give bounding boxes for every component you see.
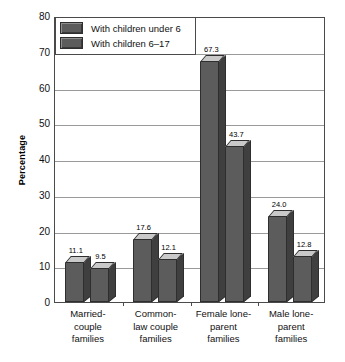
gridline xyxy=(55,161,324,162)
x-category-label-line: Female lone- xyxy=(190,308,258,321)
bar: 12.1 xyxy=(158,259,177,302)
x-category-label-line: parent xyxy=(190,321,258,334)
bar-value-label: 9.5 xyxy=(95,252,105,261)
x-category-label: Female lone-parentfamilies xyxy=(190,308,258,346)
x-category-label-line: families xyxy=(54,333,122,346)
y-tick-label: 30 xyxy=(6,191,50,201)
bar: 11.1 xyxy=(65,262,84,302)
x-category-label-line: Common- xyxy=(122,308,190,321)
legend-label: With children under 6 xyxy=(91,23,181,34)
x-category-label-line: Male lone- xyxy=(257,308,325,321)
bar-front-face xyxy=(268,216,287,302)
bar: 43.7 xyxy=(225,146,244,302)
x-category-label-line: families xyxy=(190,333,258,346)
x-category-label-line: Married- xyxy=(54,308,122,321)
y-tick-label: 60 xyxy=(6,84,50,94)
bar-front-face xyxy=(158,259,177,302)
x-axis-tick xyxy=(123,302,124,306)
y-tick-label: 10 xyxy=(6,262,50,272)
x-axis-tick xyxy=(258,302,259,306)
bar-front-face xyxy=(65,262,84,302)
bar-front-face xyxy=(225,146,244,302)
bar-front-face xyxy=(293,256,312,302)
x-category-label: Common-law couplefamilies xyxy=(122,308,190,346)
y-tick-label: 80 xyxy=(6,12,50,22)
bar: 24.0 xyxy=(268,216,287,302)
bar-value-label: 11.1 xyxy=(69,246,83,255)
x-category-label-line: parent xyxy=(257,321,325,334)
bar-side-face xyxy=(109,262,116,302)
x-category-label: Male lone-parentfamilies xyxy=(257,308,325,346)
x-category-label-line: couple xyxy=(54,321,122,334)
bar-value-label: 43.7 xyxy=(229,130,244,139)
bar: 9.5 xyxy=(90,268,109,302)
x-axis-category-labels: Married-couplefamiliesCommon-law couplef… xyxy=(54,308,325,360)
bar: 67.3 xyxy=(200,61,219,302)
bar: 12.8 xyxy=(293,256,312,302)
gridline xyxy=(55,197,324,198)
x-category-label-line: law couple xyxy=(122,321,190,334)
legend-item: With children under 6 xyxy=(60,21,191,35)
gridline xyxy=(55,125,324,126)
bar-front-face xyxy=(133,239,152,302)
legend-label: With children 6–17 xyxy=(91,38,170,49)
y-tick-label: 70 xyxy=(6,48,50,58)
x-category-label-line: families xyxy=(257,333,325,346)
bar-side-face xyxy=(244,140,251,302)
bar-front-face xyxy=(90,268,109,302)
bar-value-label: 67.3 xyxy=(204,45,219,54)
bar-value-label: 24.0 xyxy=(272,200,287,209)
bar-value-label: 12.8 xyxy=(297,240,312,249)
bar-value-label: 17.6 xyxy=(136,223,151,232)
y-tick-label: 20 xyxy=(6,227,50,237)
y-tick-label: 50 xyxy=(6,119,50,129)
legend-item: With children 6–17 xyxy=(60,36,191,50)
x-category-label-line: families xyxy=(122,333,190,346)
legend-swatch xyxy=(60,37,83,49)
plot-area: 11.19.517.612.167.343.724.012.8 xyxy=(54,17,325,303)
bar-front-face xyxy=(200,61,219,302)
chart-legend: With children under 6With children 6–17 xyxy=(55,17,196,55)
bar: 17.6 xyxy=(133,239,152,302)
bar-side-face xyxy=(312,250,319,302)
bar-value-label: 12.1 xyxy=(161,243,176,252)
legend-swatch xyxy=(60,22,83,34)
gridline xyxy=(55,90,324,91)
y-axis-tick-labels: 80706050403020100 xyxy=(0,0,50,362)
bar-chart: Percentage 80706050403020100 11.19.517.6… xyxy=(0,0,345,362)
bar-side-face xyxy=(177,253,184,302)
y-tick-label: 0 xyxy=(6,298,50,308)
x-category-label: Married-couplefamilies xyxy=(54,308,122,346)
y-tick-label: 40 xyxy=(6,155,50,165)
x-axis-tick xyxy=(191,302,192,306)
